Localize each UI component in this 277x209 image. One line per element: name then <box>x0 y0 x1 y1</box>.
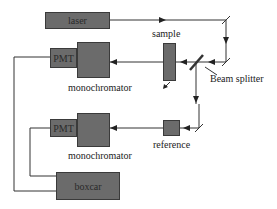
laser-box: laser <box>45 12 110 29</box>
pmt-bottom-label: PMT <box>53 123 74 134</box>
sample-label: sample <box>152 28 180 39</box>
monochromator-bottom-box <box>77 113 110 147</box>
pmt-bottom-box: PMT <box>50 119 77 137</box>
laser-label: laser <box>68 15 87 26</box>
sample-box <box>163 43 176 81</box>
reference-box <box>163 120 180 136</box>
boxcar-label: boxcar <box>74 181 101 192</box>
monochromator-bottom-label: monochromator <box>68 150 132 161</box>
beam-splitter-label: Beam splitter <box>210 73 264 84</box>
pmt-top-box: PMT <box>50 48 77 68</box>
boxcar-box: boxcar <box>56 172 120 200</box>
reference-label: reference <box>153 139 190 150</box>
monochromator-top-box <box>77 42 110 78</box>
monochromator-top-label: monochromator <box>68 82 132 93</box>
diagram-connections <box>0 0 277 209</box>
pmt-top-label: PMT <box>53 53 74 64</box>
